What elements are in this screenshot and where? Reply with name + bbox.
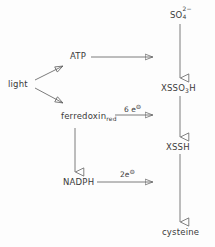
node-nadph: NADPH — [63, 178, 94, 187]
node-light: light — [8, 80, 28, 89]
diagram-canvas: SO2−4 ATP light XSSO3H ferredoxinred XSS… — [0, 0, 215, 247]
node-cysteine: cysteine — [162, 228, 199, 237]
arrow-light-to-atp — [35, 66, 63, 80]
node-atp: ATP — [70, 52, 86, 61]
edge-label-two-electrons: 2e⊖ — [120, 169, 135, 179]
node-sulfate: SO2−4 — [170, 9, 187, 19]
node-xsso3h: XSSO3H — [161, 84, 196, 94]
arrow-light-to-ferredoxin — [35, 88, 63, 103]
node-xssh: XSSH — [166, 143, 190, 152]
diagram-arrows-layer — [0, 0, 215, 247]
edge-label-six-electrons: 6 e⊖ — [124, 104, 141, 114]
node-ferredoxin-red: ferredoxinred — [61, 112, 117, 122]
